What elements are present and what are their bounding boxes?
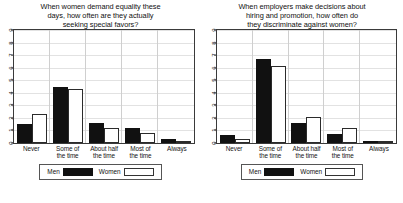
bar-women <box>342 128 357 143</box>
x-axis-label: Never <box>216 145 252 160</box>
bar-women <box>140 133 155 143</box>
bar-group <box>86 30 122 143</box>
legend-swatch-women-icon-right <box>325 168 355 176</box>
x-axis-label: Some ofthe time <box>49 145 85 160</box>
bar-women <box>235 139 250 143</box>
bar-women <box>306 117 321 143</box>
bar-men <box>363 141 378 143</box>
bar-group <box>50 30 86 143</box>
bar-women <box>104 128 119 143</box>
bar-group <box>360 30 396 143</box>
legend-item-men-left: Men <box>47 168 92 176</box>
x-axis-label: Most ofthe time <box>325 145 361 160</box>
bar-women <box>32 114 47 143</box>
y-axis-right: 0123456789 <box>203 29 216 144</box>
bar-women <box>68 89 83 143</box>
bar-men <box>220 135 235 143</box>
legend-label-women-left: Women <box>99 168 121 175</box>
bar-group <box>14 30 50 143</box>
x-axis-left: NeverSome ofthe timeAbout halfthe timeMo… <box>13 145 195 160</box>
two-panel-bar-chart-figure: When women demand equality these days, h… <box>0 0 403 203</box>
legend-label-men-right: Men <box>249 168 261 175</box>
chart-panel-right: When employers make decisions about hiri… <box>201 0 403 203</box>
plot-wrap-left: 0123456789 <box>13 29 195 144</box>
panel-title-left-line-1: When women demand equality these <box>6 2 195 11</box>
panel-title-left-line-3: seeking special favors? <box>6 20 195 29</box>
x-axis-label: Some ofthe time <box>252 145 288 160</box>
x-axis-right: NeverSome ofthe timeAbout halfthe timeMo… <box>216 145 397 160</box>
bar-men <box>256 59 271 143</box>
bar-men <box>89 123 104 143</box>
legend-label-men-left: Men <box>47 168 59 175</box>
chart-panel-left: When women demand equality these days, h… <box>0 0 201 203</box>
x-axis-label: About halfthe time <box>86 145 122 160</box>
plot-wrap-right: 0123456789 <box>216 29 397 144</box>
bar-women <box>176 141 191 143</box>
bar-men <box>125 128 140 143</box>
legend-item-women-left: Women <box>99 168 154 176</box>
bar-group <box>324 30 360 143</box>
panel-title-right-line-2: hiring and promotion, how often do <box>207 11 397 20</box>
bar-group <box>253 30 289 143</box>
legend-right: Men Women <box>241 164 363 180</box>
legend-item-women-right: Women <box>300 168 355 176</box>
bar-group <box>122 30 158 143</box>
bar-women <box>271 66 286 143</box>
panel-title-left-line-2: days, how often are they actually <box>6 11 195 20</box>
bar-groups-right <box>217 30 396 143</box>
legend-swatch-women-icon-left <box>124 168 154 176</box>
bar-women <box>378 141 393 144</box>
bar-group <box>158 30 194 143</box>
bar-men <box>291 123 306 143</box>
bar-men <box>17 124 32 143</box>
legend-left: Men Women <box>39 164 161 180</box>
plot-area-right <box>216 29 397 144</box>
y-axis-left: 0123456789 <box>0 29 13 144</box>
legend-swatch-men-icon-right <box>264 168 294 176</box>
legend-swatch-men-icon-left <box>63 168 93 176</box>
legend-row-right: Men Women <box>201 164 403 180</box>
x-axis-label: Never <box>13 145 49 160</box>
legend-row-left: Men Women <box>0 164 201 180</box>
x-axis-label: About halfthe time <box>288 145 324 160</box>
bar-men <box>161 139 176 143</box>
x-axis-label: Always <box>361 145 397 160</box>
bar-group <box>289 30 325 143</box>
panel-title-left: When women demand equality these days, h… <box>0 0 201 29</box>
x-axis-label: Most ofthe time <box>122 145 158 160</box>
legend-label-women-right: Women <box>300 168 322 175</box>
panel-title-right-line-1: When employers make decisions about <box>207 2 397 11</box>
x-axis-label: Always <box>159 145 195 160</box>
bar-men <box>53 87 68 144</box>
legend-item-men-right: Men <box>249 168 294 176</box>
bar-groups-left <box>14 30 194 143</box>
panel-title-right-line-3: they discriminate against women? <box>207 20 397 29</box>
bar-men <box>327 134 342 143</box>
bar-group <box>217 30 253 143</box>
panel-title-right: When employers make decisions about hiri… <box>201 0 403 29</box>
plot-area-left <box>13 29 195 144</box>
